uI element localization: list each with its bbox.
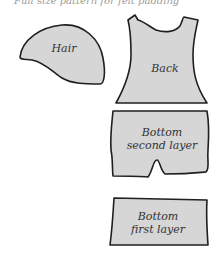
back-piece — [116, 15, 207, 103]
bottom-second-label-line2: second layer — [122, 139, 202, 152]
bottom-second-label-line1: Bottom — [122, 126, 202, 139]
bottom-second-label: Bottom second layer — [122, 126, 202, 152]
bottom-first-label-line2: first layer — [118, 223, 198, 236]
bottom-first-label: Bottom first layer — [118, 210, 198, 236]
back-label: Back — [140, 62, 190, 75]
hair-label: Hair — [44, 42, 84, 55]
bottom-first-label-line1: Bottom — [118, 210, 198, 223]
